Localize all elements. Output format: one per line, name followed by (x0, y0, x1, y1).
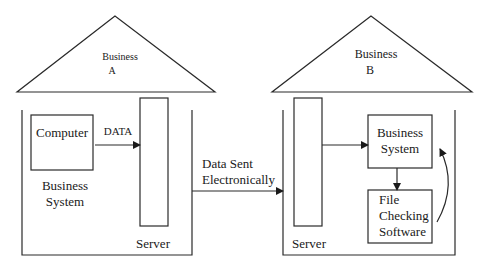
business-a-system-label-2: System (46, 194, 84, 209)
business-b-walls (283, 110, 455, 255)
business-a-house: Business A Computer DATA Business System… (17, 16, 215, 255)
business-b-system-label-2: System (381, 141, 419, 156)
electronic-transfer: Data Sent Electronically (192, 156, 283, 191)
file-checking-label-3: Software (379, 224, 426, 239)
business-b-roof-label-1: Business (355, 47, 398, 61)
business-b-house: Business B Server Business System File C… (272, 16, 472, 255)
business-b-system-label-1: Business (377, 125, 423, 140)
business-a-roof-label-1: Business (102, 51, 138, 62)
checker-return-arrow (437, 149, 448, 222)
transfer-label-2: Electronically (202, 172, 275, 187)
business-a-system-label-1: Business (42, 178, 88, 193)
transfer-label-1: Data Sent (202, 156, 253, 171)
business-data-flow-diagram: Business A Computer DATA Business System… (0, 0, 489, 269)
data-arrow-label: DATA (104, 125, 133, 137)
business-b-server (294, 98, 322, 226)
file-checking-label-1: File (379, 192, 399, 207)
computer-box (31, 115, 93, 170)
business-a-server (140, 98, 168, 226)
computer-label: Computer (36, 125, 89, 140)
business-b-roof-label-2: B (366, 63, 374, 77)
business-a-server-label: Server (136, 236, 171, 251)
file-checking-label-2: Checking (379, 208, 429, 223)
business-b-server-label: Server (292, 236, 327, 251)
business-a-roof-label-2: A (108, 65, 116, 76)
